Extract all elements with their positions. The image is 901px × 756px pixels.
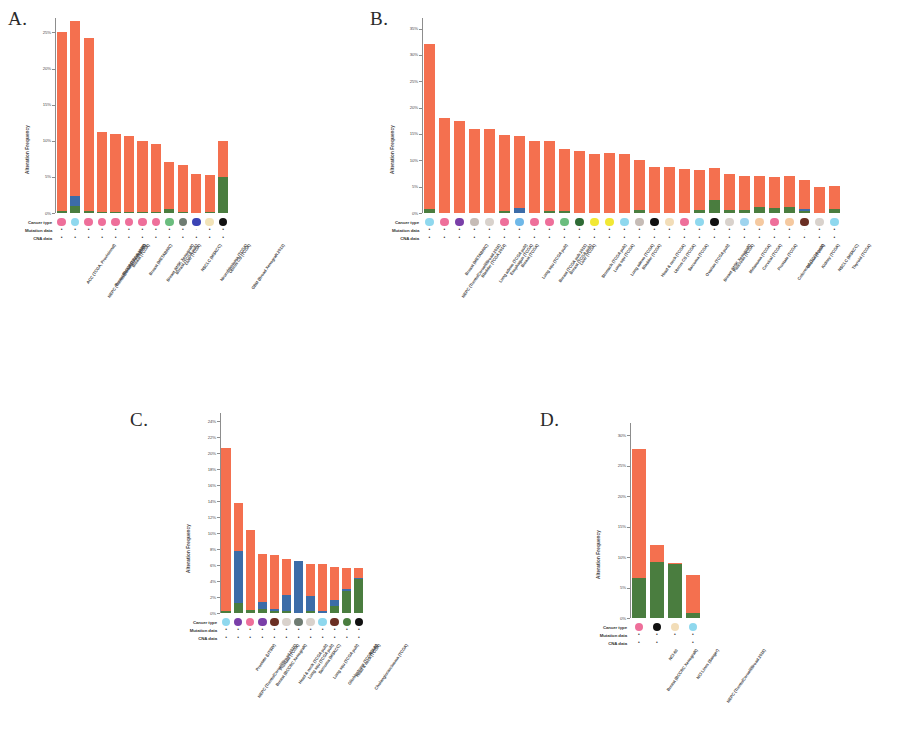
bar[interactable]	[282, 559, 291, 613]
cancer-type-color-dot[interactable]	[282, 618, 291, 627]
cancer-type-color-dot[interactable]	[258, 618, 267, 627]
cancer-type-color-dot[interactable]	[671, 623, 680, 632]
cancer-type-color-dot[interactable]	[205, 218, 214, 227]
bar[interactable]	[57, 32, 67, 213]
bar[interactable]	[499, 135, 510, 214]
cancer-type-color-dot[interactable]	[98, 218, 107, 227]
cancer-type-color-dot[interactable]	[530, 218, 539, 227]
bar[interactable]	[178, 165, 188, 213]
bar[interactable]	[769, 177, 780, 213]
bar[interactable]	[829, 186, 840, 213]
cancer-type-color-dot[interactable]	[500, 218, 509, 227]
cancer-type-color-dot[interactable]	[785, 218, 794, 227]
cancer-type-color-dot[interactable]	[330, 618, 339, 627]
bar[interactable]	[218, 141, 228, 213]
bar[interactable]	[469, 129, 480, 213]
bar[interactable]	[739, 176, 750, 213]
cancer-type-color-dot[interactable]	[653, 623, 662, 632]
bar[interactable]	[589, 154, 600, 213]
cancer-type-color-dot[interactable]	[689, 623, 698, 632]
cancer-type-color-dot[interactable]	[560, 218, 569, 227]
cancer-type-color-dot[interactable]	[425, 218, 434, 227]
bar[interactable]	[97, 132, 107, 213]
bar[interactable]	[164, 162, 174, 213]
bar[interactable]	[424, 44, 435, 213]
cancer-type-color-dot[interactable]	[219, 218, 228, 227]
cancer-type-color-dot[interactable]	[680, 218, 689, 227]
cancer-type-color-dot[interactable]	[270, 618, 279, 627]
bar[interactable]	[205, 175, 215, 213]
bar[interactable]	[514, 136, 525, 213]
cancer-type-color-dot[interactable]	[590, 218, 599, 227]
bar[interactable]	[234, 503, 243, 613]
bar[interactable]	[306, 564, 315, 613]
cancer-type-color-dot[interactable]	[111, 218, 120, 227]
bar[interactable]	[454, 121, 465, 213]
cancer-type-color-dot[interactable]	[515, 218, 524, 227]
bar[interactable]	[679, 169, 690, 213]
bar[interactable]	[799, 180, 810, 213]
cancer-type-color-dot[interactable]	[635, 623, 644, 632]
cancer-type-color-dot[interactable]	[620, 218, 629, 227]
cancer-type-color-dot[interactable]	[770, 218, 779, 227]
cancer-type-color-dot[interactable]	[165, 218, 174, 227]
bar[interactable]	[342, 568, 351, 613]
cancer-type-color-dot[interactable]	[485, 218, 494, 227]
bar[interactable]	[649, 167, 660, 213]
bar[interactable]	[814, 187, 825, 213]
cancer-type-color-dot[interactable]	[545, 218, 554, 227]
bar[interactable]	[270, 555, 279, 613]
cancer-type-color-dot[interactable]	[815, 218, 824, 227]
cancer-type-color-dot[interactable]	[755, 218, 764, 227]
bar[interactable]	[694, 170, 705, 213]
cancer-type-color-dot[interactable]	[455, 218, 464, 227]
cancer-type-color-dot[interactable]	[71, 218, 80, 227]
cancer-type-color-dot[interactable]	[318, 618, 327, 627]
bar[interactable]	[484, 129, 495, 213]
cancer-type-color-dot[interactable]	[152, 218, 161, 227]
cancer-type-color-dot[interactable]	[234, 618, 243, 627]
cancer-type-color-dot[interactable]	[343, 618, 352, 627]
bar[interactable]	[632, 449, 646, 618]
cancer-type-color-dot[interactable]	[355, 618, 364, 627]
cancer-type-color-dot[interactable]	[830, 218, 839, 227]
cancer-type-color-dot[interactable]	[575, 218, 584, 227]
bar[interactable]	[354, 568, 363, 613]
bar[interactable]	[784, 176, 795, 213]
bar[interactable]	[559, 149, 570, 213]
bar[interactable]	[330, 567, 339, 613]
bar[interactable]	[529, 141, 540, 213]
bar[interactable]	[151, 144, 161, 213]
bar[interactable]	[619, 154, 630, 213]
bar[interactable]	[294, 561, 303, 613]
cancer-type-color-dot[interactable]	[125, 218, 134, 227]
cancer-type-color-dot[interactable]	[725, 218, 734, 227]
bar[interactable]	[664, 167, 675, 213]
cancer-type-color-dot[interactable]	[800, 218, 809, 227]
cancer-type-color-dot[interactable]	[710, 218, 719, 227]
cancer-type-color-dot[interactable]	[650, 218, 659, 227]
bar[interactable]	[544, 141, 555, 213]
bar[interactable]	[221, 448, 230, 613]
cancer-type-color-dot[interactable]	[179, 218, 188, 227]
bar[interactable]	[137, 141, 147, 213]
cancer-type-color-dot[interactable]	[192, 218, 201, 227]
bar[interactable]	[191, 174, 201, 213]
cancer-type-color-dot[interactable]	[470, 218, 479, 227]
cancer-type-color-dot[interactable]	[635, 218, 644, 227]
bar[interactable]	[686, 575, 700, 618]
cancer-type-color-dot[interactable]	[84, 218, 93, 227]
bar[interactable]	[258, 554, 267, 613]
bar[interactable]	[110, 134, 120, 213]
cancer-type-color-dot[interactable]	[440, 218, 449, 227]
bar[interactable]	[124, 136, 134, 213]
cancer-type-color-dot[interactable]	[665, 218, 674, 227]
cancer-type-color-dot[interactable]	[695, 218, 704, 227]
bar[interactable]	[754, 176, 765, 213]
bar[interactable]	[439, 118, 450, 213]
bar[interactable]	[650, 545, 664, 618]
bar[interactable]	[724, 174, 735, 213]
cancer-type-color-dot[interactable]	[306, 618, 315, 627]
cancer-type-color-dot[interactable]	[57, 218, 66, 227]
cancer-type-color-dot[interactable]	[138, 218, 147, 227]
